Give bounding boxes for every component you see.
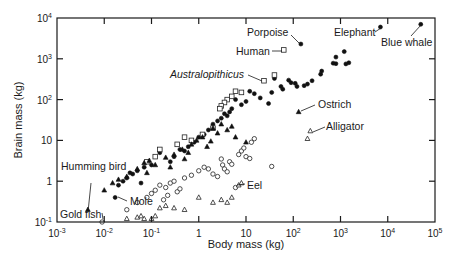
data-point-open-square [239, 90, 244, 95]
data-point-open-circle [219, 157, 223, 161]
data-point-open-circle [202, 165, 206, 169]
data-point-open-square [233, 89, 238, 94]
data-point-filled-circle [287, 78, 291, 82]
data-point-open-square [158, 147, 163, 152]
data-point-open-circle [252, 137, 256, 141]
data-point-open-triangle [229, 195, 234, 199]
data-point-filled-circle [319, 72, 323, 76]
data-point-open-square [281, 48, 286, 53]
x-tick-label: 104 [380, 227, 395, 239]
x-tick-label: 1 [196, 228, 202, 239]
data-point-filled-triangle [116, 177, 121, 181]
data-point-open-square [229, 94, 234, 99]
data-point-open-triangle [153, 213, 158, 217]
eel-label: Eel [247, 179, 262, 191]
data-point-filled-circle [310, 79, 314, 83]
data-point-filled-circle [252, 92, 256, 96]
data-point-filled-triangle [229, 124, 234, 128]
y-tick-label: 10 [41, 135, 53, 146]
data-point-filled-circle [344, 62, 348, 66]
data-point-filled-triangle [205, 144, 210, 148]
data-point-filled-circle [142, 165, 146, 169]
data-point-filled-triangle [145, 170, 150, 174]
data-point-filled-circle [299, 42, 303, 46]
data-point-open-circle [125, 208, 129, 212]
porpoise-leader [291, 35, 300, 44]
x-tick-label: 10-3 [48, 227, 65, 239]
data-point-open-circle [225, 170, 229, 174]
alligator-label: Alligator [326, 120, 364, 132]
data-point-filled-circle [334, 55, 338, 59]
porpoise-label: Porpoise [247, 26, 289, 38]
data-point-open-circle [182, 176, 186, 180]
data-point-open-circle [230, 162, 234, 166]
data-point-filled-circle [279, 84, 283, 88]
data-point-open-square [182, 135, 187, 140]
y-axis-title: Brain mass (kg) [12, 81, 24, 158]
data-point-open-circle [161, 198, 165, 202]
data-point-filled-triangle [225, 127, 230, 131]
data-point-filled-circle [293, 81, 297, 85]
data-point-filled-circle [342, 50, 346, 54]
data-point-open-circle [242, 146, 246, 150]
blue-whale-leader [411, 25, 421, 36]
data-point-filled-circle [228, 110, 232, 114]
data-point-open-square [262, 78, 267, 83]
alligator-leader [313, 127, 325, 132]
mole-leader [118, 197, 127, 201]
data-point-filled-triangle [296, 109, 301, 113]
data-point-filled-circle [206, 128, 210, 132]
data-point-open-triangle [157, 205, 162, 209]
data-point-filled-triangle [208, 139, 213, 143]
data-point-filled-circle [113, 195, 117, 199]
data-point-open-circle [215, 174, 219, 178]
data-point-filled-circle [270, 90, 274, 94]
data-point-open-circle [248, 156, 252, 160]
data-point-filled-circle [219, 116, 223, 120]
data-point-open-circle [189, 173, 193, 177]
data-point-filled-triangle [244, 140, 249, 144]
y-tick-label: 103 [37, 53, 52, 65]
data-point-open-triangle [172, 205, 177, 209]
data-point-open-circle [211, 172, 215, 176]
data-point-filled-circle [239, 103, 243, 107]
data-point-open-triangle [182, 207, 187, 211]
data-point-filled-triangle [163, 155, 168, 159]
data-point-filled-triangle [172, 152, 177, 156]
data-point-open-circle [172, 179, 176, 183]
data-point-open-triangle [219, 197, 224, 201]
data-point-open-square [153, 154, 158, 159]
data-point-open-triangle [225, 200, 230, 204]
data-point-filled-circle [302, 84, 306, 88]
data-point-filled-triangle [233, 135, 238, 139]
data-point-filled-circle [128, 171, 132, 175]
data-point-filled-triangle [135, 166, 140, 170]
ostrich-label: Ostrich [318, 98, 351, 110]
data-point-filled-circle [331, 61, 335, 65]
data-point-filled-triangle [182, 156, 187, 160]
data-point-open-circle [165, 193, 169, 197]
data-point-open-circle [197, 169, 201, 173]
data-point-filled-circle [267, 102, 271, 106]
australopithicus-leader [248, 75, 262, 81]
data-point-open-triangle [305, 136, 310, 140]
blue-whale-label: Blue whale [381, 36, 433, 48]
data-point-open-circle [270, 164, 274, 168]
data-point-filled-circle [168, 160, 172, 164]
data-point-filled-circle [121, 179, 125, 183]
gold-fish-leader [102, 213, 103, 219]
data-point-open-triangle [196, 195, 201, 199]
data-point-open-triangle [211, 200, 216, 204]
data-point-filled-circle [258, 96, 262, 100]
data-point-open-circle [153, 188, 157, 192]
y-tick-label: 102 [37, 94, 52, 106]
data-point-open-square [272, 73, 277, 78]
data-point-open-circle [178, 187, 182, 191]
data-point-open-triangle [163, 203, 168, 207]
brain-body-mass-chart: 10-310-210-111010210310410510-1110102103… [0, 0, 455, 268]
y-tick-label: 10-1 [35, 216, 52, 228]
gold-fish-label: Gold fish [60, 208, 102, 220]
data-point-open-square [175, 142, 180, 147]
data-point-filled-triangle [102, 188, 107, 192]
x-tick-label: 102 [286, 227, 301, 239]
